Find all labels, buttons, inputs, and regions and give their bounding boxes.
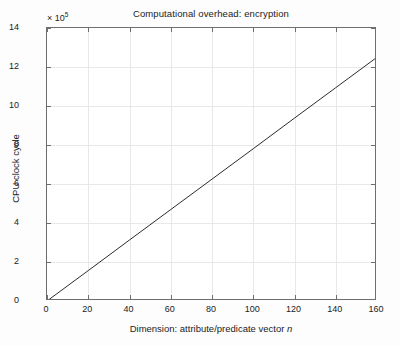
chart-title: Computational overhead: encryption <box>46 8 376 19</box>
x-axis-tick-label: 100 <box>245 304 260 314</box>
y-axis-tick-label: 0 <box>14 295 19 305</box>
x-axis-tick-label: 20 <box>82 304 92 314</box>
y-axis-tick-label: 2 <box>14 256 19 266</box>
y-axis-multiplier-exponent: 5 <box>65 11 69 18</box>
y-axis-tick-label: 14 <box>9 22 19 32</box>
y-axis-multiplier-label: × 105 <box>47 11 68 23</box>
x-axis-tick-label: 40 <box>123 304 133 314</box>
x-axis-label-variable: n <box>287 323 292 334</box>
x-axis-label: Dimension: attribute/predicate vector n <box>46 323 376 334</box>
data-series-layer <box>47 28 375 299</box>
x-axis-tick-label: 160 <box>368 304 383 314</box>
y-axis-tick-label: 12 <box>9 61 19 71</box>
x-axis-tick-label: 120 <box>286 304 301 314</box>
x-axis-tick-label: 60 <box>165 304 175 314</box>
data-line-encryption <box>47 57 375 299</box>
x-axis-tick-label: 0 <box>43 304 48 314</box>
plot-area <box>46 27 376 300</box>
x-axis-label-text: Dimension: attribute/predicate vector <box>130 323 287 334</box>
y-axis-label: CPU clock cycle <box>10 99 21 239</box>
series-canvas <box>47 28 375 299</box>
y-axis-multiplier-base: × 10 <box>47 13 65 23</box>
x-axis-tick-label: 80 <box>206 304 216 314</box>
x-axis-tick-label: 140 <box>327 304 342 314</box>
chart-figure: Computational overhead: encryption × 105… <box>0 0 400 346</box>
